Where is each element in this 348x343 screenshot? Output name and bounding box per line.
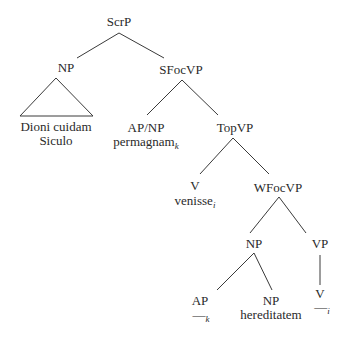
edge-wfocvp-vp [279,197,306,233]
node-np-subject: NP [58,61,75,75]
trace-dash: — [193,307,206,322]
np-subject-text-2: Siculo [39,134,72,148]
node-np-noun: NP [263,294,280,308]
v-moved-word: venissei [175,194,216,209]
np-triangle [20,78,93,116]
index-i: i [213,200,216,210]
node-scrp: ScrP [107,15,132,29]
edge-topvp-wfocvp [233,138,269,174]
edge-scrp-sfocvp [119,33,164,58]
edge-np-ap [217,253,254,290]
ap-trace-mark: —k [193,308,210,323]
edge-wfocvp-np [250,197,279,233]
node-ap-trace: AP [192,294,209,308]
edge-np-np [254,253,272,290]
syntax-tree: ScrP NP Dioni cuidam Siculo SFocVP AP/NP… [0,0,348,343]
index-k: k [206,314,210,324]
node-np-object: NP [246,237,263,251]
trace-dash: — [314,299,327,314]
edge-scrp-np [77,33,119,58]
edge-sfocvp-topvp [182,80,218,115]
apnp-word-text: permagnam [113,134,174,149]
node-wfocvp: WFocVP [254,181,302,195]
node-apnp: AP/NP [128,121,165,135]
node-topvp: TopVP [217,121,254,135]
node-sfocvp: SFocVP [159,63,202,77]
index-i: i [327,306,330,316]
np-noun-word: hereditatem [240,308,301,322]
edge-sfocvp-apnp [147,80,182,115]
apnp-word: permagnamk [113,135,178,150]
edge-topvp-v [200,138,233,174]
tree-edges [0,0,348,343]
index-k: k [175,141,179,151]
np-subject-text-1: Dioni cuidam [20,120,91,134]
node-vp: VP [312,237,329,251]
node-v-moved: V [190,179,199,193]
v-moved-word-text: venisse [175,193,213,208]
v-trace-mark: —i [314,300,330,315]
